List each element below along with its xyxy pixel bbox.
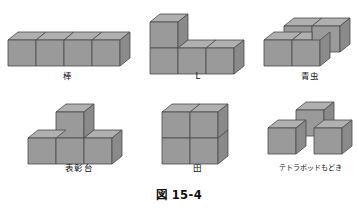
shape-podium-drawing: [26, 100, 132, 172]
shape-podium: [26, 100, 132, 172]
shape-label-podium: 表彰台: [26, 163, 132, 173]
figure-15-4: 棒 L: [0, 0, 358, 209]
shape-label-tetrapod: テトラポッドもどき: [262, 163, 358, 173]
shape-tetrapod: [266, 100, 358, 172]
shape-label-bar: 棒: [18, 71, 118, 81]
shape-l-shape: [148, 10, 248, 76]
shape-l-shape-drawing: [148, 10, 248, 76]
shape-label-caterpillar: 青虫: [262, 71, 358, 81]
shape-bar: [8, 26, 128, 76]
shape-label-square: 田: [160, 163, 236, 173]
figure-caption: 図 15-4: [0, 186, 358, 202]
shape-bar-drawing: [8, 26, 128, 76]
shape-square: [160, 100, 236, 172]
shape-square-drawing: [160, 100, 236, 172]
shape-tetrapod-drawing: [266, 100, 358, 172]
shape-caterpillar-drawing: [262, 10, 358, 76]
shape-caterpillar: [262, 10, 358, 76]
shape-label-l-shape: L: [148, 71, 248, 81]
